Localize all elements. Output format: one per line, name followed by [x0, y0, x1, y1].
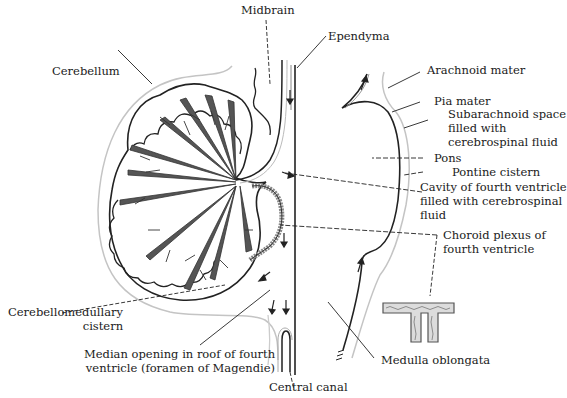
- flow-arrow-icon: [259, 76, 368, 314]
- label-pons: Pons: [434, 151, 462, 165]
- pia-arachnoid-outline: [352, 72, 409, 358]
- central-canal: [282, 331, 290, 372]
- label-cavity-fourth-ventricle: Cavity of fourth ventricle filled with c…: [420, 180, 567, 222]
- label-cerebellomedullary-cistern: Cerebellomedullary cistern: [8, 305, 123, 333]
- label-midbrain: Midbrain: [241, 3, 295, 17]
- label-pontine-cistern: Pontine cistern: [452, 165, 540, 179]
- label-cerebellum: Cerebellum: [52, 64, 120, 78]
- label-choroid-plexus: Choroid plexus of fourth ventricle: [443, 228, 546, 256]
- label-subarachnoid-space: Subarachnoid space filled with cerebrosp…: [448, 107, 566, 149]
- label-ependyma: Ependyma: [328, 29, 390, 43]
- label-central-canal: Central canal: [269, 380, 348, 394]
- label-medulla-oblongata: Medulla oblongata: [381, 353, 490, 367]
- choroid-plexus-inset-icon: [383, 303, 454, 342]
- label-arachnoid-mater: Arachnoid mater: [427, 63, 525, 77]
- label-pia-mater: Pia mater: [434, 94, 491, 108]
- cerebellum-shape: [109, 84, 266, 300]
- midbrain-outline: [253, 68, 270, 135]
- label-median-opening: Median opening in roof of fourth ventric…: [84, 347, 275, 375]
